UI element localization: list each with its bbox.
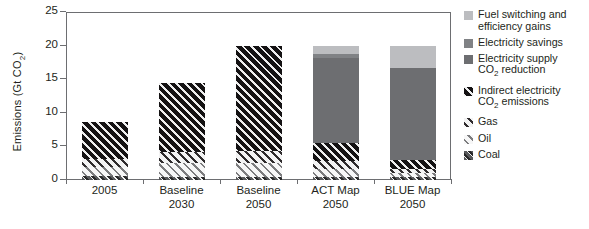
bar-segment-oil[interactable]	[313, 169, 359, 177]
legend-swatch-electricity-supply-icon	[464, 55, 473, 64]
bar-segment-gas[interactable]	[313, 161, 359, 168]
bar-segment-gas[interactable]	[390, 169, 436, 173]
bar-stack[interactable]	[236, 12, 282, 180]
bar-segment-oil[interactable]	[236, 163, 282, 177]
y-axis-tick-label: 0	[34, 172, 58, 184]
x-axis-label-line: BLUE Map	[385, 184, 441, 196]
x-axis-label-line: Baseline	[159, 184, 203, 196]
y-axis-title: Emissions (Gt CO2)	[11, 17, 26, 187]
x-axis-label-line: 2030	[169, 198, 195, 210]
bar-segment-indirect[interactable]	[390, 160, 436, 169]
x-axis-label-line: Baseline	[236, 184, 280, 196]
bar-series-group	[66, 12, 451, 180]
y-axis-tick-label: 25	[34, 4, 58, 16]
bar-segment-indirect[interactable]	[159, 83, 205, 152]
bar-segment-coal[interactable]	[313, 177, 359, 180]
legend-label-electricity-supply-line2a: CO	[478, 63, 494, 75]
y-axis-title-subscript: 2	[18, 56, 27, 61]
bar-segment-fuelsw[interactable]	[390, 46, 436, 69]
legend-label-oil: Oil	[478, 133, 491, 145]
legend-item-indirect-electricity[interactable]: Indirect electricity CO2 emissions	[464, 85, 589, 112]
bar-segment-gas[interactable]	[159, 152, 205, 163]
legend-item-oil[interactable]: Oil	[464, 133, 589, 145]
bar-stack[interactable]	[159, 12, 205, 180]
bar-segment-indirect[interactable]	[82, 122, 128, 159]
legend-label-fuel-switching: Fuel switching and efficiency gains	[478, 9, 567, 32]
legend-item-electricity-supply[interactable]: Electricity supply CO2 reduction	[464, 53, 589, 80]
bar-segment-coal[interactable]	[236, 177, 282, 180]
x-axis-label-line: ACT Map	[311, 184, 359, 196]
y-axis-title-text: Emissions (Gt CO	[11, 60, 23, 151]
legend-swatch-oil-icon	[464, 135, 473, 144]
legend-item-coal[interactable]: Coal	[464, 149, 589, 161]
bar-segment-gas[interactable]	[236, 151, 282, 162]
x-axis-label-line: 2050	[246, 198, 272, 210]
legend-label-indirect-electricity: Indirect electricity CO2 emissions	[478, 85, 561, 112]
legend-swatch-gas-icon	[464, 118, 473, 127]
y-axis-tick-label: 5	[34, 138, 58, 150]
legend-swatch-indirect-electricity-icon	[464, 87, 473, 96]
x-axis-label-line: 2050	[400, 198, 426, 210]
legend-label-coal: Coal	[478, 149, 500, 161]
legend-swatch-fuel-switching-icon	[464, 11, 473, 20]
legend-label-electricity-supply: Electricity supply CO2 reduction	[478, 53, 558, 80]
bar-segment-indirect[interactable]	[236, 46, 282, 152]
legend-label-indirect-electricity-line1: Indirect electricity	[478, 84, 561, 96]
x-axis-label-line: 2050	[323, 198, 349, 210]
legend-label-indirect-electricity-line2a: CO	[478, 95, 494, 107]
bar-segment-supply[interactable]	[313, 58, 359, 143]
bar-segment-coal[interactable]	[390, 177, 436, 180]
legend-item-fuel-switching[interactable]: Fuel switching and efficiency gains	[464, 9, 589, 32]
bar-segment-oil[interactable]	[82, 167, 128, 176]
bar-segment-oil[interactable]	[390, 173, 436, 178]
y-axis-tick-label: 20	[34, 38, 58, 50]
legend-swatch-coal-icon	[464, 151, 473, 160]
x-axis-label: BLUE Map2050	[358, 184, 468, 211]
bar-stack[interactable]	[390, 12, 436, 180]
bar-segment-supply[interactable]	[390, 68, 436, 159]
legend-swatch-electricity-savings-icon	[464, 39, 473, 48]
y-axis-title-tail: )	[11, 52, 23, 56]
bar-segment-gas[interactable]	[82, 159, 128, 168]
bar-stack[interactable]	[313, 12, 359, 180]
legend-label-electricity-supply-line1: Electricity supply	[478, 52, 558, 64]
bar-stack[interactable]	[82, 12, 128, 180]
bar-segment-savings[interactable]	[313, 54, 359, 58]
bar-segment-coal[interactable]	[82, 176, 128, 180]
legend-label-gas: Gas	[478, 116, 498, 128]
bar-segment-fuelsw[interactable]	[313, 46, 359, 55]
bar-segment-oil[interactable]	[159, 163, 205, 176]
bar-segment-indirect[interactable]	[313, 143, 359, 161]
bar-segment-coal[interactable]	[159, 177, 205, 180]
legend-item-electricity-savings[interactable]: Electricity savings	[464, 37, 589, 49]
x-axis-label-line: 2005	[92, 184, 118, 196]
chart-legend: Fuel switching and efficiency gains Elec…	[464, 9, 589, 165]
legend-item-gas[interactable]: Gas	[464, 116, 589, 128]
y-axis-tick-label: 10	[34, 105, 58, 117]
chart-figure: Emissions (Gt CO2) 0510152025 2005Baseli…	[0, 0, 589, 229]
legend-label-fuel-switching-line1: Fuel switching and	[478, 8, 567, 20]
legend-label-electricity-savings: Electricity savings	[478, 37, 563, 49]
legend-label-fuel-switching-line2: efficiency gains	[478, 20, 551, 32]
y-axis-tick-label: 15	[34, 71, 58, 83]
legend-label-electricity-supply-line2c: reduction	[498, 63, 545, 75]
legend-label-indirect-electricity-line2c: emissions	[498, 95, 548, 107]
